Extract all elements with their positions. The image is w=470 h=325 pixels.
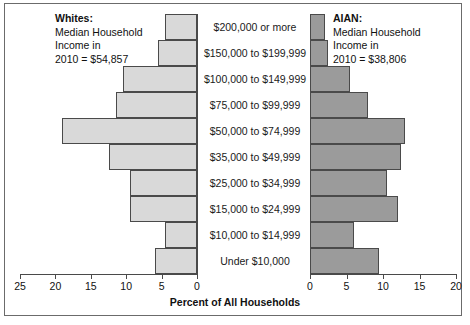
- axis-tick: [420, 274, 421, 279]
- pyramid-row: $150,000 to $199,999: [0, 40, 470, 66]
- x-axis-title: Percent of All Households: [135, 296, 335, 308]
- axis-tick: [91, 274, 92, 279]
- axis-tick-label: 0: [297, 280, 323, 292]
- axis-tick: [55, 274, 56, 279]
- category-label: $25,000 to $34,999: [198, 170, 312, 196]
- axis-tick: [383, 274, 384, 279]
- axis-tick-label: 25: [7, 280, 33, 292]
- bar-whites: [116, 92, 197, 118]
- category-label: $50,000 to $74,999: [198, 118, 312, 144]
- category-label: $75,000 to $99,999: [198, 92, 312, 118]
- pyramid-row: $50,000 to $74,999: [0, 118, 470, 144]
- pyramid-row: $10,000 to $14,999: [0, 222, 470, 248]
- axis-tick: [20, 274, 21, 279]
- category-label: $15,000 to $24,999: [198, 196, 312, 222]
- axis-tick: [456, 274, 457, 279]
- axis-tick: [162, 274, 163, 279]
- pyramid-row: $35,000 to $49,999: [0, 144, 470, 170]
- bar-whites: [155, 248, 197, 274]
- axis-tick: [347, 274, 348, 279]
- bar-aian: [310, 222, 354, 248]
- axis-tick-label: 20: [42, 280, 68, 292]
- bar-whites: [165, 14, 197, 40]
- bar-aian: [310, 66, 350, 92]
- axis-tick-label: 15: [407, 280, 433, 292]
- pyramid-row: Under $10,000: [0, 248, 470, 274]
- axis-tick-label: 5: [149, 280, 175, 292]
- axis-tick-label: 0: [184, 280, 210, 292]
- bar-whites: [123, 66, 197, 92]
- axis-tick-label: 15: [78, 280, 104, 292]
- bar-whites: [130, 196, 197, 222]
- right-zero-rule: [310, 14, 311, 274]
- bar-aian: [310, 40, 328, 66]
- pyramid-row: $15,000 to $24,999: [0, 196, 470, 222]
- axis-tick: [197, 274, 198, 279]
- bar-aian: [310, 144, 401, 170]
- axis-tick: [310, 274, 311, 279]
- left-zero-rule: [197, 14, 198, 274]
- bar-aian: [310, 118, 405, 144]
- category-label: $150,000 to $199,999: [198, 40, 312, 66]
- pyramid-row: $25,000 to $34,999: [0, 170, 470, 196]
- pyramid-row: $100,000 to $149,999: [0, 66, 470, 92]
- axis-tick-label: 5: [334, 280, 360, 292]
- pyramid-row: $75,000 to $99,999: [0, 92, 470, 118]
- axis-tick-label: 10: [370, 280, 396, 292]
- category-label: Under $10,000: [198, 248, 312, 274]
- axis-tick: [126, 274, 127, 279]
- bar-whites: [158, 40, 197, 66]
- left-axis-line: [20, 274, 197, 275]
- axis-tick-label: 20: [443, 280, 469, 292]
- category-label: $200,000 or more: [198, 14, 312, 40]
- pyramid-row: $200,000 or more: [0, 14, 470, 40]
- bar-aian: [310, 248, 379, 274]
- bar-aian: [310, 92, 368, 118]
- bar-whites: [62, 118, 197, 144]
- bar-whites: [109, 144, 198, 170]
- bar-aian: [310, 14, 325, 40]
- category-label: $100,000 to $149,999: [198, 66, 312, 92]
- population-pyramid-chart: Whites: Median Household Income in 2010 …: [0, 0, 470, 325]
- category-label: $10,000 to $14,999: [198, 222, 312, 248]
- bar-aian: [310, 170, 387, 196]
- bar-aian: [310, 196, 398, 222]
- bar-whites: [130, 170, 197, 196]
- bar-whites: [165, 222, 197, 248]
- axis-tick-label: 10: [113, 280, 139, 292]
- category-label: $35,000 to $49,999: [198, 144, 312, 170]
